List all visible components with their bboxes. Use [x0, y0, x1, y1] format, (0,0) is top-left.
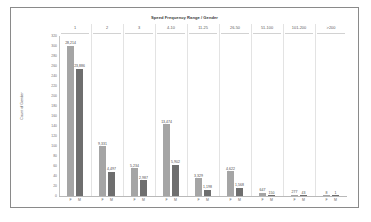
y-tick-label: 220	[37, 84, 57, 88]
bar-value-label: 150	[262, 191, 282, 195]
gender-tick-label: M	[202, 198, 214, 202]
gender-tick-label: M	[234, 198, 246, 202]
group-rule	[157, 33, 185, 34]
group-label-cell: >200	[315, 24, 347, 36]
bar-value-label: 9,331	[93, 142, 113, 146]
group-separator	[251, 24, 252, 196]
y-axis-title: Count of Gender	[20, 76, 24, 136]
group-rule	[61, 33, 89, 34]
y-tick-label: 60	[37, 164, 57, 168]
gender-axis: FMFMFMFMFMFMFMFMFM	[59, 198, 347, 208]
bar[interactable]	[140, 180, 148, 196]
y-tick-label: 80	[37, 154, 57, 158]
group-separator	[283, 24, 284, 196]
y-tick-label: 160	[37, 114, 57, 118]
group-rule	[93, 33, 121, 34]
gender-tick-label: M	[170, 198, 182, 202]
y-tick-label: 40	[37, 174, 57, 178]
gender-tick-label: M	[330, 198, 342, 202]
group-label: >200	[315, 25, 347, 30]
y-tick-label: 20	[37, 184, 57, 188]
bar-value-label: 1,198	[198, 185, 218, 189]
group-rule	[285, 33, 313, 34]
y-tick-label: 280	[37, 54, 57, 58]
bar-value-label: 4,497	[102, 167, 122, 171]
y-tick-label: 100	[37, 144, 57, 148]
y-tick-label: 320	[37, 34, 57, 38]
chart-frame: Speed Frequency Range / Gender 1234-1011…	[10, 7, 359, 208]
bar[interactable]	[76, 69, 84, 196]
y-tick-label: 180	[37, 104, 57, 108]
y-tick-label: 0	[37, 194, 57, 198]
bar-value-label: 23,886	[70, 64, 90, 68]
x-axis-line	[59, 196, 347, 197]
group-label: 26-50	[219, 25, 251, 30]
group-axis: 1234-1011-2526-5051-100101-200>200	[59, 24, 347, 36]
chart-title: Speed Frequency Range / Gender	[11, 15, 358, 20]
group-separator	[155, 24, 156, 196]
group-rule	[125, 33, 153, 34]
bar-value-label: 43	[294, 191, 314, 195]
group-separator	[91, 24, 92, 196]
gender-tick-label: M	[266, 198, 278, 202]
y-tick-label: 200	[37, 94, 57, 98]
y-tick-label: 120	[37, 134, 57, 138]
group-label: 1	[59, 25, 91, 30]
y-tick-label: 300	[37, 44, 57, 48]
group-separator	[187, 24, 188, 196]
group-label-cell: 11-25	[187, 24, 219, 36]
y-tick-label: 140	[37, 124, 57, 128]
bar-value-label: 5,234	[125, 164, 145, 168]
bar[interactable]	[108, 172, 116, 196]
bar[interactable]	[67, 46, 75, 196]
gender-tick-label: M	[106, 198, 118, 202]
group-label-cell: 51-100	[251, 24, 283, 36]
group-label-cell: 4-10	[155, 24, 187, 36]
gender-tick-label: M	[74, 198, 86, 202]
gender-tick-label: M	[138, 198, 150, 202]
group-label-cell: 26-50	[219, 24, 251, 36]
bar[interactable]	[172, 165, 180, 196]
group-separator	[123, 24, 124, 196]
gender-tick-label: M	[298, 198, 310, 202]
group-label: 3	[123, 25, 155, 30]
group-label: 11-25	[187, 25, 219, 30]
group-separator	[315, 24, 316, 196]
group-label-cell: 2	[91, 24, 123, 36]
group-rule	[317, 33, 345, 34]
group-separator	[219, 24, 220, 196]
bar-value-label: 1	[326, 191, 346, 195]
y-tick-label: 260	[37, 64, 57, 68]
bar-value-label: 13,474	[157, 120, 177, 124]
bar-value-label: 1,568	[230, 183, 250, 187]
group-label: 4-10	[155, 25, 187, 30]
group-rule	[189, 33, 217, 34]
bar[interactable]	[236, 188, 244, 196]
bar-value-label: 28,214	[61, 41, 81, 45]
group-rule	[221, 33, 249, 34]
bar-value-label: 5,902	[166, 160, 186, 164]
group-label-cell: 101-200	[283, 24, 315, 36]
plot-area: 28,21423,8869,3314,4975,2342,98713,4745,…	[59, 36, 347, 196]
group-label: 51-100	[251, 25, 283, 30]
bar-value-label: 3,329	[189, 174, 209, 178]
y-tick-label: 240	[37, 74, 57, 78]
bar-value-label: 4,622	[221, 167, 241, 171]
y-axis-ticks: 3203002802602402202001801601401201008060…	[37, 32, 57, 200]
group-label: 101-200	[283, 25, 315, 30]
group-label-cell: 3	[123, 24, 155, 36]
group-label-cell: 1	[59, 24, 91, 36]
group-label: 2	[91, 25, 123, 30]
bar[interactable]	[131, 168, 139, 196]
bar-value-label: 2,987	[134, 176, 154, 180]
group-rule	[253, 33, 281, 34]
